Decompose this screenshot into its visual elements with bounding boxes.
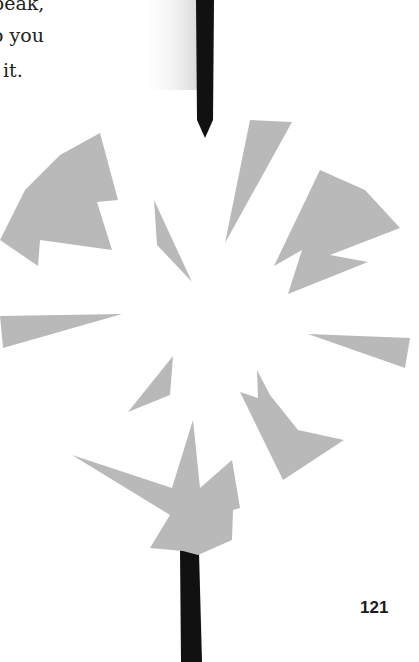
page-number: 121 bbox=[360, 598, 388, 618]
shard-top-center bbox=[225, 120, 292, 243]
shard-bottom bbox=[72, 420, 240, 555]
shard-lower-left bbox=[128, 356, 173, 412]
top-stick bbox=[196, 0, 214, 138]
shard-center-left bbox=[154, 200, 192, 282]
burst-illustration bbox=[0, 0, 419, 662]
shard-left bbox=[0, 314, 122, 348]
shard-right-horizontal bbox=[308, 334, 410, 368]
bottom-stick bbox=[180, 550, 202, 662]
stick-shadow bbox=[140, 0, 200, 90]
shard-top-left bbox=[0, 133, 118, 266]
shard-lower-right bbox=[240, 370, 344, 480]
shard-right bbox=[274, 170, 400, 294]
